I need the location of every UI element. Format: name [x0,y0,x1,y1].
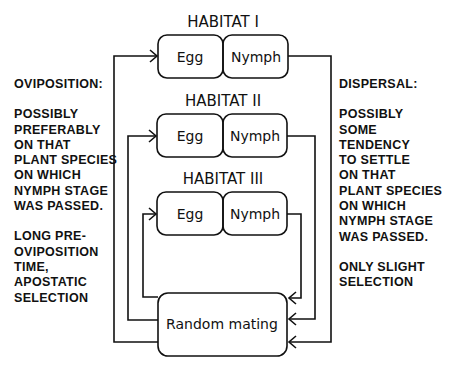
text-line: SELECTION [14,291,117,306]
random-mating-label: Random mating [166,316,278,332]
habitat-1-label: HABITAT I [187,13,259,31]
text-line: NYMPH STAGE [339,214,450,229]
habitat-2-nymph-label: Nymph [230,128,280,144]
oviposition-line-3 [143,214,158,297]
text-line: WAS PASSED. [339,230,450,245]
text-line: TO SETTLE [339,153,450,168]
text-line: ON THAT [339,168,450,183]
dispersal-line-3 [287,214,301,298]
text-line: NYMPH STAGE [14,184,117,199]
text-line: SELECTION [339,275,450,290]
dispersal-line-1 [288,56,331,342]
text-line: LONG PRE- [14,229,117,244]
habitat-1-nymph-label: Nymph [231,49,281,65]
text-line: ON WHICH [339,199,450,214]
oviposition-title: OVIPOSITION: [14,77,117,92]
habitat-3-egg-label: Egg [177,206,204,222]
text-line: PLANT SPECIES [339,184,450,199]
text-line: WAS PASSED. [14,199,117,214]
habitat-2-egg-label: Egg [177,128,204,144]
oviposition-line-1 [114,56,158,342]
oviposition-panel: OVIPOSITION: POSSIBLY PREFERABLY ON THAT… [14,77,117,306]
text-line: APOSTATIC [14,275,117,290]
habitat-2-label: HABITAT II [185,92,261,110]
text-line: OVIPOSITION [14,245,117,260]
text-line: POSSIBLY [14,107,117,122]
text-line: ON THAT [14,138,117,153]
text-line: PREFERABLY [14,123,117,138]
text-line: PLANT SPECIES [14,153,117,168]
habitat-3-nymph-label: Nymph [230,206,280,222]
dispersal-title: DISPERSAL: [339,77,450,92]
habitat-3-label: HABITAT III [183,170,264,188]
habitat-1-egg-label: Egg [177,49,204,65]
text-line: SOME TENDENCY [339,123,450,154]
text-line: TIME, [14,260,117,275]
text-line: ONLY SLIGHT [339,260,450,275]
text-line: POSSIBLY [339,107,450,122]
text-line: ON WHICH [14,168,117,183]
dispersal-panel: DISPERSAL: POSSIBLY SOME TENDENCY TO SET… [339,77,450,291]
